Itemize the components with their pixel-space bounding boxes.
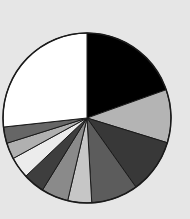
pie-chart	[0, 0, 190, 219]
pie-slice-11	[3, 33, 87, 127]
